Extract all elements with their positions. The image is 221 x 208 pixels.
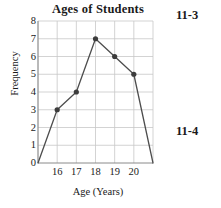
x-tick-label: 20 bbox=[124, 166, 144, 177]
data-point-marker bbox=[112, 54, 117, 59]
data-point-marker bbox=[55, 107, 60, 112]
data-point-marker bbox=[93, 36, 98, 41]
data-point-marker bbox=[74, 89, 79, 94]
data-point-marker bbox=[131, 72, 136, 77]
x-tick-label: 19 bbox=[105, 166, 125, 177]
chart-page: Ages of Students Frequency 8 7 6 5 4 3 2… bbox=[0, 0, 221, 208]
x-tick-label: 18 bbox=[86, 166, 106, 177]
x-axis-title: Age (Years) bbox=[30, 186, 166, 197]
section-marker-bottom: 11-4 bbox=[176, 124, 198, 139]
section-marker-top: 11-3 bbox=[176, 8, 198, 23]
x-tick-label: 16 bbox=[47, 166, 67, 177]
x-tick-label: 17 bbox=[66, 166, 86, 177]
